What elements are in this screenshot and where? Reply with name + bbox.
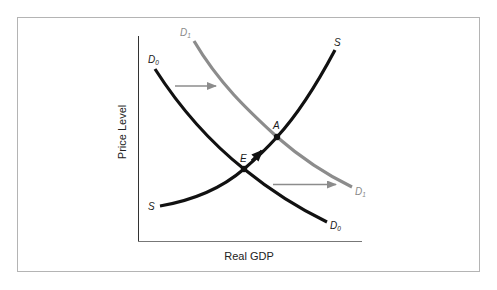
label-d0-end-main: D [330,220,337,231]
label-d0-start-main: D [148,54,155,65]
label-point-e: E [240,153,247,164]
label-supply-end: S [334,37,341,48]
supply-demand-diagram: Price Level Real GDP E A S S D0 D0 D1 D1 [0,0,497,290]
y-axis-title: Price Level [116,105,128,159]
supply-curve [160,50,335,206]
label-supply-start: S [148,201,155,212]
label-point-a: A [272,120,280,131]
label-d0-end: D0 [330,220,341,232]
demand-curve-d0 [155,69,327,222]
point-e [241,166,247,172]
label-d1-end: D1 [355,186,366,198]
label-d1-end-main: D [355,186,362,197]
label-d0-start: D0 [148,54,159,66]
x-axis-title: Real GDP [224,250,274,262]
label-d0-start-sub: 0 [155,59,159,66]
label-d0-end-sub: 0 [337,225,341,232]
label-d1-start-sub: 1 [187,32,191,39]
diagram-stage: Price Level Real GDP E A S S D0 D0 D1 D1 [0,0,497,290]
axes [138,36,362,242]
label-d1-start-main: D [180,27,187,38]
label-d1-start: D1 [180,27,191,39]
label-d1-end-sub: 1 [362,191,366,198]
point-a [274,134,280,140]
